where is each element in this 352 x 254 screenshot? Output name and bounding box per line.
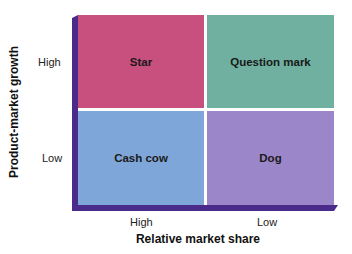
y-tick-high: High	[38, 56, 61, 68]
quadrant-question-mark-label: Question mark	[230, 56, 311, 68]
matrix: Star Question mark Cash cow Dog	[72, 15, 334, 211]
y-axis-label: Product-market growth	[7, 46, 21, 178]
x-tick-high: High	[130, 216, 153, 228]
x-axis-label: Relative market share	[0, 232, 352, 246]
quadrant-cash-cow-label: Cash cow	[114, 152, 168, 164]
matrix-bottom-edge	[72, 205, 334, 211]
quadrant-star-label: Star	[130, 56, 152, 68]
quadrant-question-mark: Question mark	[207, 15, 334, 108]
y-tick-low: Low	[42, 152, 62, 164]
quadrant-star: Star	[78, 15, 204, 108]
quadrant-cash-cow: Cash cow	[78, 111, 204, 205]
quadrant-dog-label: Dog	[259, 152, 281, 164]
x-tick-low: Low	[257, 216, 277, 228]
quadrant-dog: Dog	[207, 111, 334, 205]
